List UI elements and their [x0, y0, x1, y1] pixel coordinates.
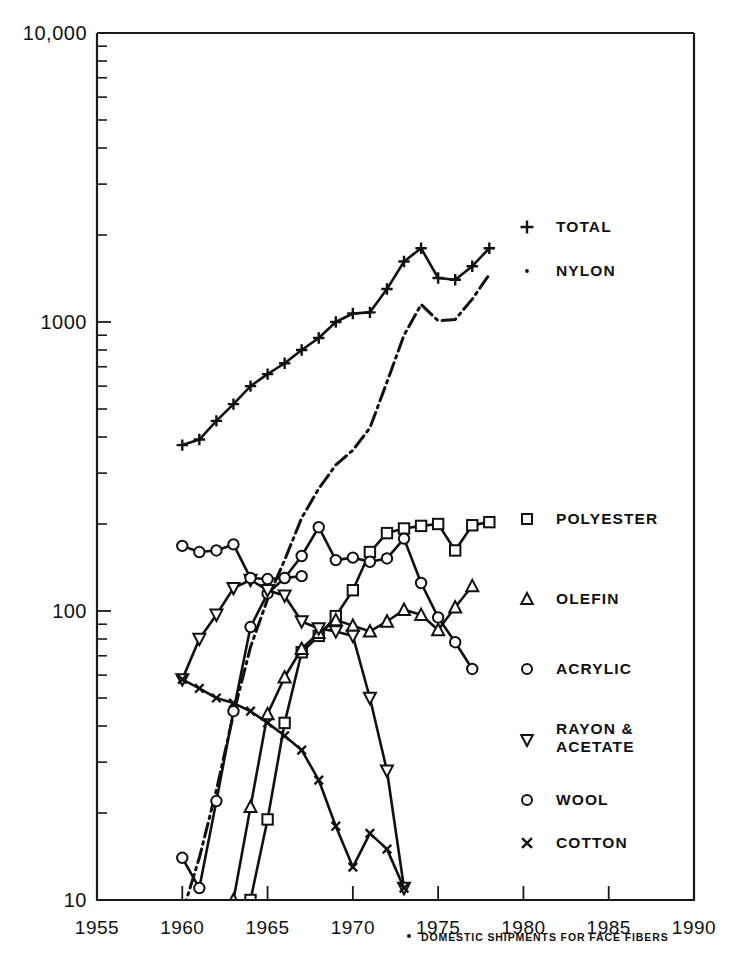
marker-circle — [211, 545, 221, 555]
marker-circle — [194, 547, 204, 557]
marker-circle — [467, 664, 477, 674]
footnote-label: DOMESTIC SHIPMENTS FOR FACE FIBERS — [421, 931, 669, 943]
legend-label: ACRYLIC — [556, 660, 632, 677]
marker-circle — [433, 612, 443, 622]
marker-circle — [228, 539, 238, 549]
x-tick-label: 1965 — [245, 917, 289, 938]
legend-label: POLYESTER — [556, 510, 658, 527]
marker-square — [382, 528, 392, 538]
marker-circle — [382, 553, 392, 563]
marker-square — [467, 520, 477, 530]
marker-circle — [296, 571, 306, 581]
marker-square — [450, 545, 460, 555]
marker-circle — [245, 622, 255, 632]
marker-square — [416, 521, 426, 531]
marker-circle — [365, 557, 375, 567]
marker-square — [399, 523, 409, 533]
marker-circle — [416, 578, 426, 588]
marker-square — [279, 718, 289, 728]
marker-circle — [245, 573, 255, 583]
legend-label: RAYON & — [556, 720, 634, 737]
marker-circle — [177, 541, 187, 551]
x-tick-label: 1955 — [75, 917, 119, 938]
legend-label: OLEFIN — [556, 590, 619, 607]
legend-label-line2: ACETATE — [556, 738, 635, 755]
legend-label: NYLON — [556, 262, 616, 279]
marker-circle — [522, 795, 532, 805]
y-tick-label: 10 — [64, 889, 87, 911]
legend-label: WOOL — [556, 791, 609, 808]
legend-label: COTTON — [556, 834, 628, 851]
marker-circle — [194, 883, 204, 893]
marker-square — [522, 514, 532, 524]
marker-dot — [525, 269, 529, 273]
marker-circle — [522, 664, 532, 674]
marker-circle — [331, 555, 341, 565]
marker-square — [484, 517, 494, 527]
marker-circle — [296, 551, 306, 561]
marker-circle — [348, 552, 358, 562]
chart-page: 19551960196519701975198019851990 1010010… — [0, 0, 729, 973]
chart-footnote: DOMESTIC SHIPMENTS FOR FACE FIBERS — [407, 931, 669, 943]
marker-circle — [211, 796, 221, 806]
x-tick-label: 1990 — [672, 917, 716, 938]
marker-square — [348, 585, 358, 595]
marker-circle — [177, 853, 187, 863]
marker-square — [433, 519, 443, 529]
y-tick-label: 10,000 — [23, 22, 87, 44]
marker-square — [262, 814, 272, 824]
marker-circle — [399, 533, 409, 543]
footnote-marker-icon — [407, 934, 411, 938]
legend-label: TOTAL — [556, 218, 612, 235]
marker-circle — [262, 574, 272, 584]
chart-background — [0, 0, 729, 973]
marker-circle — [314, 522, 324, 532]
x-tick-label: 1960 — [160, 917, 204, 938]
y-tick-label: 100 — [52, 600, 87, 622]
y-tick-label: 1000 — [41, 311, 88, 333]
marker-circle — [279, 573, 289, 583]
x-tick-label: 1970 — [331, 917, 375, 938]
marker-circle — [450, 637, 460, 647]
fiber-shipments-log-chart: 19551960196519701975198019851990 1010010… — [0, 0, 729, 973]
